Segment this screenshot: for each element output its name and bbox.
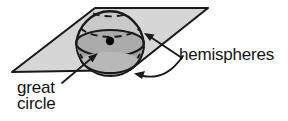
- arrowhead-lower-icon: [134, 71, 145, 79]
- arrow-to-lower-hemisphere: [143, 56, 183, 77]
- label-hemispheres: hemispheres: [179, 46, 274, 63]
- diagram-canvas: hemispheres great circle: [0, 0, 288, 121]
- center-dot: [106, 37, 114, 45]
- label-great-circle-line2: circle: [17, 95, 55, 112]
